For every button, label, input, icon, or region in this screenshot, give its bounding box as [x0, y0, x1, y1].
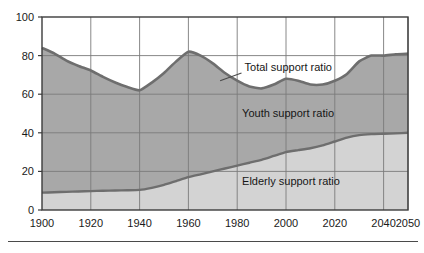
y-axis-tick-labels: 020406080100 [16, 11, 34, 216]
y-tick-label-80: 80 [22, 50, 34, 62]
y-tick-label-0: 0 [28, 204, 34, 216]
x-tick-label-2040: 2040 [371, 217, 395, 229]
x-tick-label-1920: 1920 [79, 217, 103, 229]
annotation-total-support-ratio: Total support ratio [245, 61, 332, 73]
x-tick-label-1940: 1940 [127, 217, 151, 229]
x-tick-label-1980: 1980 [225, 217, 249, 229]
x-tick-label-2050: 2050 [396, 217, 420, 229]
y-tick-label-60: 60 [22, 88, 34, 100]
support-ratio-area-chart: 020406080100 190019201940196019802000202… [0, 0, 424, 253]
x-tick-label-1960: 1960 [176, 217, 200, 229]
x-tick-label-2000: 2000 [274, 217, 298, 229]
annotation-youth-support-ratio: Youth support ratio [242, 107, 334, 119]
y-tick-label-100: 100 [16, 11, 34, 23]
y-tick-label-20: 20 [22, 165, 34, 177]
caption-fragment [10, 244, 70, 252]
x-tick-label-2020: 2020 [323, 217, 347, 229]
x-tick-label-1900: 1900 [30, 217, 54, 229]
y-tick-label-40: 40 [22, 127, 34, 139]
caption-divider [8, 241, 418, 242]
x-axis-tick-labels: 190019201940196019802000202020402050 [30, 217, 420, 229]
annotation-elderly-support-ratio: Elderly support ratio [242, 175, 340, 187]
figure-container: 020406080100 190019201940196019802000202… [0, 0, 424, 253]
